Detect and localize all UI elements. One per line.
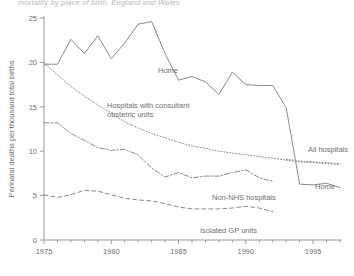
- label-isolated-gp-units: Isolated GP units: [200, 226, 257, 235]
- perinatal-mortality-chart: mortality by place of birth, England and…: [0, 0, 354, 276]
- x-tick-label: 1995: [305, 247, 322, 256]
- series-line-hospitals-with-consultant-obstetric-units: [44, 63, 340, 164]
- y-tick-label: 25: [29, 14, 37, 23]
- label-hospitals-consultant: Hospitals with consultant: [107, 101, 190, 110]
- y-axis-title: Perinatal deaths per thousand total birt…: [7, 60, 16, 197]
- series-labels-group: HomeHospitals with consultantobstetric u…: [107, 66, 348, 235]
- label-non-nhs-hospitals: Non-NHS hospitals: [212, 193, 276, 202]
- label-home-top: Home: [158, 66, 178, 75]
- x-tick-label: 1990: [237, 247, 254, 256]
- x-tick-label: 1975: [36, 247, 53, 256]
- y-tick-label: 20: [29, 58, 37, 67]
- axes-group: 051015202519751980198519901995Perinatal …: [7, 14, 342, 256]
- y-tick-label: 5: [33, 191, 37, 200]
- series-group: [44, 22, 340, 212]
- label-obstetric-units: obstetric units: [107, 110, 154, 119]
- y-tick-label: 15: [29, 103, 37, 112]
- chart-plot-area: 051015202519751980198519901995Perinatal …: [0, 0, 354, 276]
- series-line-home: [44, 22, 340, 188]
- x-tick-label: 1985: [170, 247, 187, 256]
- label-all-hospitals: All hospitals: [308, 145, 348, 154]
- label-home-right: Home: [315, 182, 335, 191]
- y-tick-label: 0: [33, 236, 37, 245]
- x-tick-label: 1980: [103, 247, 120, 256]
- y-tick-label: 10: [29, 147, 37, 156]
- series-line-non-nhs-hospitals: [44, 123, 273, 182]
